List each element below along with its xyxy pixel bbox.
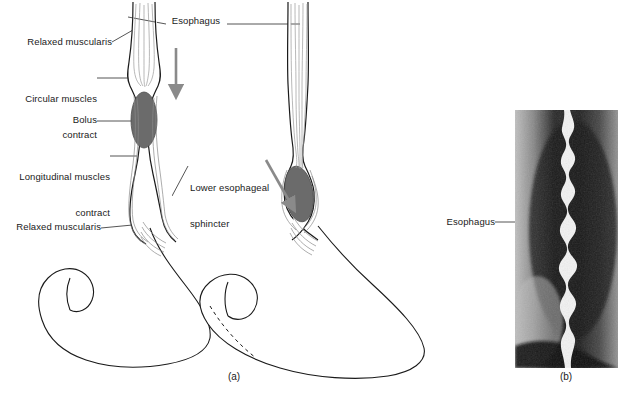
barium-swallow-radiograph [515,110,618,368]
label-relaxed-muscularis-bottom: Relaxed muscularis [0,221,101,233]
label-esophagus-radiograph: Esophagus [440,216,495,228]
label-relaxed-muscularis-top: Relaxed muscularis [0,36,112,48]
label-circular-line-1: Circular muscles [0,93,97,105]
label-esophagus-diagram: Esophagus [146,15,246,27]
anatomy-figure: Esophagus Relaxed muscularis Circular mu… [0,0,632,401]
panel-caption-a: (a) [214,371,254,382]
panel-caption-b: (b) [546,371,586,382]
label-les-line-1: Lower esophageal [190,182,300,194]
stomach-outline-left [39,228,211,367]
leader-les [172,166,188,196]
label-longitudinal-line-1: Longitudinal muscles [0,171,110,183]
label-circular-line-2: contract [0,129,97,141]
radiograph-image [515,110,618,368]
label-longitudinal-line-2: contract [0,207,110,219]
label-bolus: Bolus [0,114,97,126]
leader-relaxed-top [112,30,133,42]
label-lower-esophageal-sphincter: Lower esophageal sphincter [190,158,300,254]
label-les-line-2: sphincter [190,218,300,230]
radiograph-film-grain [515,110,618,368]
